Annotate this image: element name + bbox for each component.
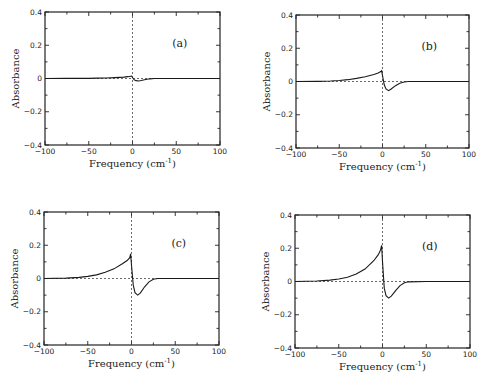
y-tick-label: 0	[37, 74, 42, 83]
x-tick-label: 0	[129, 347, 134, 356]
panel-label: (c)	[171, 237, 186, 250]
y-tick-label: −0.2	[23, 307, 41, 316]
y-axis-label: Absorbance	[260, 251, 271, 312]
y-tick-label: −0.2	[274, 310, 292, 319]
y-tick-label: −0.4	[275, 144, 293, 153]
y-tick-label: 0.2	[29, 241, 41, 250]
y-tick-label: 0	[36, 274, 41, 283]
x-tick-label: 50	[421, 350, 431, 359]
y-tick-label: −0.4	[23, 341, 41, 350]
panel-b: −100−50050100−0.4−0.200.20.4Frequency (c…	[261, 11, 476, 173]
x-tick-label: −50	[81, 147, 97, 156]
x-tick-label: 50	[171, 147, 181, 156]
y-tick-label: 0.4	[280, 211, 292, 220]
x-tick-label: 50	[421, 150, 431, 159]
y-tick-label: −0.4	[274, 344, 292, 353]
x-tick-label: 100	[463, 350, 478, 359]
y-tick-label: −0.2	[24, 107, 42, 116]
y-tick-label: −0.2	[275, 110, 293, 119]
x-tick-label: 0	[130, 147, 135, 156]
figure-canvas: −100−50050100−0.4−0.200.20.4Frequency (c…	[0, 0, 479, 386]
x-tick-label: 100	[213, 147, 228, 156]
y-axis-label: Absorbance	[9, 248, 20, 309]
y-tick-label: 0	[288, 77, 293, 86]
x-axis-label: Frequency (cm-1)	[339, 160, 426, 172]
x-tick-label: 100	[212, 347, 227, 356]
panel-c: −100−50050100−0.4−0.200.20.4Frequency (c…	[9, 208, 226, 370]
y-axis-label: Absorbance	[261, 51, 272, 112]
x-axis-label: Frequency (cm-1)	[89, 157, 176, 169]
x-tick-label: −50	[331, 350, 347, 359]
panel-label: (d)	[422, 240, 438, 253]
panel-label: (b)	[421, 40, 437, 53]
y-tick-label: 0.2	[281, 44, 293, 53]
panel-d: −100−50050100−0.4−0.200.20.4Frequency (c…	[260, 211, 477, 373]
y-tick-label: 0.2	[280, 244, 292, 253]
x-axis-label: Frequency (cm-1)	[339, 360, 426, 372]
x-axis-label: Frequency (cm-1)	[88, 357, 175, 369]
panel-label: (a)	[172, 37, 187, 50]
y-tick-label: −0.4	[24, 141, 42, 150]
x-tick-label: 50	[170, 347, 180, 356]
y-tick-label: 0.2	[30, 41, 42, 50]
y-tick-label: 0.4	[30, 8, 42, 17]
x-tick-label: 0	[380, 350, 385, 359]
y-tick-label: 0.4	[29, 208, 41, 217]
y-axis-label: Absorbance	[10, 48, 21, 109]
x-tick-label: 0	[380, 150, 385, 159]
panel-a: −100−50050100−0.4−0.200.20.4Frequency (c…	[10, 8, 227, 170]
x-tick-label: 100	[462, 150, 477, 159]
x-tick-label: −50	[80, 347, 96, 356]
y-tick-label: 0.4	[281, 11, 293, 20]
y-tick-label: 0	[287, 277, 292, 286]
x-tick-label: −50	[331, 150, 347, 159]
